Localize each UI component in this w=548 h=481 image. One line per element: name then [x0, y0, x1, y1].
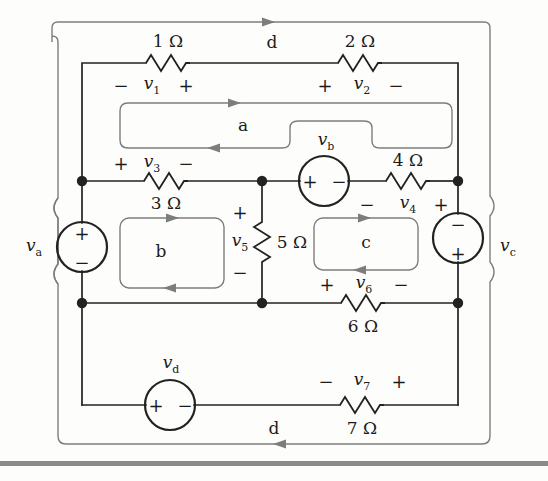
- loop-a-arrow-top: [228, 99, 241, 108]
- vb-minus-terminal: −: [331, 171, 346, 192]
- vc-minus-terminal: −: [450, 214, 465, 235]
- node-bottom-right: [453, 298, 463, 308]
- loop-d-arrow-top: [262, 18, 275, 27]
- resistor-r6-label: 6 Ω: [348, 316, 378, 336]
- loop-b-path: [120, 218, 224, 288]
- resistor-r3-symbol: [144, 173, 188, 189]
- v7-minus-sign: −: [318, 371, 333, 392]
- loop-d-arrow-bottom: [273, 440, 286, 449]
- loop-c-label: c: [361, 232, 371, 252]
- vb-plus-terminal: +: [302, 171, 317, 192]
- resistor-r7-symbol: [340, 397, 384, 413]
- resistor-r5-label: 5 Ω: [277, 232, 307, 252]
- source-va-label: va: [26, 235, 42, 258]
- node-bottom-left: [77, 298, 87, 308]
- loop-a-arrow-bottom: [207, 144, 220, 153]
- voltage-v1-label: v1: [144, 73, 161, 96]
- resistor-r2-symbol: [338, 55, 382, 71]
- source-vc-label: vc: [500, 235, 516, 258]
- circuit-wires: [82, 63, 458, 405]
- resistor-r2-label: 2 Ω: [345, 31, 375, 51]
- resistor-r1-label: 1 Ω: [153, 31, 183, 51]
- voltage-v6-label: v6: [356, 272, 373, 295]
- node-bottom-mid: [257, 298, 267, 308]
- v1-plus-sign: +: [178, 75, 193, 96]
- v3-plus-sign: +: [113, 153, 128, 174]
- loop-b-arrow-top: [166, 214, 179, 223]
- loop-c-arrow-top: [358, 214, 371, 223]
- resistor-r6-symbol: [341, 295, 385, 311]
- vd-minus-terminal: −: [177, 395, 192, 416]
- v2-plus-sign: +: [317, 75, 332, 96]
- v5-minus-sign: −: [232, 262, 247, 283]
- vd-plus-terminal: +: [148, 395, 163, 416]
- v5-plus-sign: +: [232, 202, 247, 223]
- v7-plus-sign: +: [391, 371, 406, 392]
- source-symbols: [57, 156, 483, 430]
- resistor-r5-symbol: [254, 222, 270, 262]
- loop-b-label: b: [156, 241, 167, 261]
- page-rule: [0, 461, 548, 466]
- vc-plus-terminal: +: [450, 243, 465, 264]
- va-minus-terminal: −: [74, 252, 89, 273]
- v4-plus-sign: +: [433, 194, 448, 215]
- loop-b-arrow-bottom: [163, 284, 176, 293]
- node-top-middle: [257, 176, 267, 186]
- voltage-v3-label: v3: [144, 151, 161, 174]
- resistor-r3-label: 3 Ω: [151, 193, 181, 213]
- loop-a-path: [120, 103, 452, 148]
- loop-d-bottom-label: d: [269, 418, 280, 438]
- voltage-v5-label: v5: [232, 230, 249, 253]
- resistor-r4-symbol: [386, 173, 430, 189]
- va-plus-terminal: +: [74, 223, 89, 244]
- v6-plus-sign: +: [319, 274, 334, 295]
- figure-canvas: 1 Ω 2 Ω 3 Ω 4 Ω 5 Ω 6 Ω 7 Ω v1 v2 v3 v4 …: [0, 0, 548, 481]
- node-top-right: [453, 176, 463, 186]
- v3-minus-sign: −: [178, 153, 193, 174]
- v4-minus-sign: −: [359, 194, 374, 215]
- v6-minus-sign: −: [393, 274, 408, 295]
- v1-minus-sign: −: [113, 75, 128, 96]
- resistor-r7-label: 7 Ω: [347, 418, 377, 438]
- loop-d-top-label: d: [267, 32, 278, 52]
- source-vd-label: vd: [163, 352, 180, 375]
- resistor-r1-symbol: [146, 55, 190, 71]
- source-vb-label: vb: [318, 129, 335, 152]
- v2-minus-sign: −: [388, 75, 403, 96]
- voltage-v4-label: v4: [400, 192, 417, 215]
- node-top-left: [77, 176, 87, 186]
- voltage-v7-label: v7: [354, 369, 371, 392]
- resistor-r4-label: 4 Ω: [393, 150, 423, 170]
- loop-a-label: a: [238, 115, 248, 135]
- voltage-v2-label: v2: [354, 73, 371, 96]
